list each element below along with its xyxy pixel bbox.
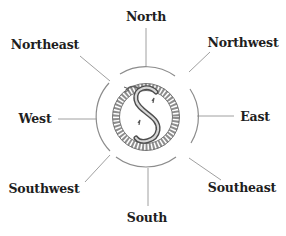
spoke-southwest bbox=[85, 155, 110, 182]
ring-arc-left bbox=[96, 83, 110, 151]
label-southwest: Southwest bbox=[8, 181, 79, 196]
label-east: East bbox=[240, 109, 270, 124]
spoke-northwest bbox=[189, 52, 210, 72]
spoke-northeast bbox=[80, 56, 110, 81]
label-northeast: Northeast bbox=[11, 37, 79, 52]
outer-ring bbox=[96, 67, 198, 167]
compass-diagram: North Northeast Northwest West East Sout… bbox=[0, 0, 286, 236]
spoke-southeast bbox=[189, 158, 221, 180]
label-south: South bbox=[127, 210, 167, 225]
label-southeast: Southeast bbox=[208, 180, 276, 195]
label-northwest: Northwest bbox=[208, 35, 279, 50]
ouroboros-serpent-s-icon bbox=[113, 84, 180, 151]
label-north: North bbox=[126, 9, 166, 24]
label-west: West bbox=[19, 111, 52, 126]
ring-arc-top bbox=[120, 67, 175, 76]
ring-arc-bottom bbox=[116, 157, 176, 167]
